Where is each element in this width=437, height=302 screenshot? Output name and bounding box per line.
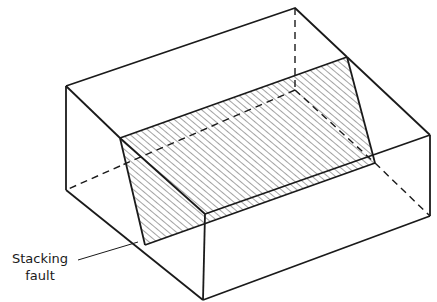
stacking-fault-label: Stacking fault [4,250,76,284]
label-line-2: fault [4,267,76,284]
label-line-1: Stacking [4,250,76,267]
stacking-fault-plane [120,57,375,245]
label-leader-line [78,242,138,260]
